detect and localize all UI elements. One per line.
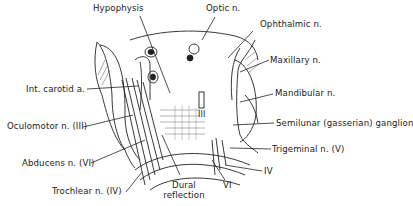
label-iii-inner: III [198,110,205,120]
label-dural-reflection-line1: Dural [166,180,202,190]
label-optic-nerve: Optic n. [206,3,240,13]
label-mandibular-nerve: Mandibular n. [275,88,335,98]
label-trochlear-nerve: Trochlear n. (IV) [52,186,122,196]
label-abducens-nerve: Abducens n. (VI) [22,158,95,168]
label-trigeminal-nerve: Trigeminal n. (V) [272,144,344,154]
label-internal-carotid-artery: Int. carotid a. [26,84,85,94]
label-maxillary-nerve: Maxillary n. [270,55,321,65]
label-oculomotor-nerve: Oculomotor n. (III) [7,121,87,131]
label-semilunar-ganglion: Semilunar (gasserian) ganglion [276,118,413,128]
label-vi-right: VI [223,180,232,190]
label-ophthalmic-nerve: Ophthalmic n. [260,19,322,29]
label-dural-reflection-line2: reflection [158,190,210,200]
label-iv-right: IV [264,166,273,176]
label-hypophysis: Hypophysis [93,3,144,13]
